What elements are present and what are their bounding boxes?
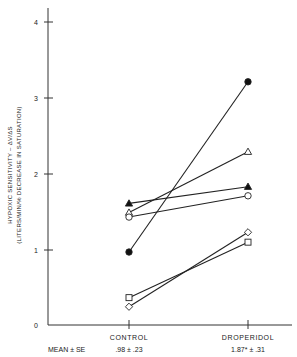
series-line	[129, 152, 248, 213]
ytick-1: 1	[34, 247, 38, 254]
open-circle-marker-icon	[245, 193, 251, 199]
series-line	[129, 82, 248, 252]
x-category-control: CONTROL	[110, 334, 148, 341]
series-1	[126, 79, 251, 256]
open-circle-marker-icon	[126, 214, 132, 220]
ytick-0: 0	[34, 322, 38, 329]
series-layer	[125, 79, 251, 311]
ytick-2: 2	[34, 171, 38, 178]
filled-triangle-marker-icon	[244, 183, 251, 189]
y-axis-title: HYPOXIC SENSITIVITY – ΔV/ΔS	[7, 126, 13, 224]
open-square-marker-icon	[126, 295, 132, 301]
series-line	[129, 196, 248, 217]
open-triangle-marker-icon	[244, 148, 251, 154]
ytick-4: 4	[34, 19, 38, 26]
filled-circle-marker-icon	[245, 79, 251, 85]
chart: 4 3 2 1 0 HYPOXIC SENSITIVITY – ΔV/ΔS (L…	[0, 0, 297, 357]
ytick-3: 3	[34, 95, 38, 102]
summary-droperidol: 1.87* ± .31	[231, 346, 265, 353]
y-axis-subtitle: (LITERS/MIN/% DECREASE IN SATURATION)	[16, 106, 22, 244]
summary-control: .98 ± .23	[115, 346, 142, 353]
series-line	[129, 187, 248, 204]
series-6	[126, 239, 251, 300]
series-4	[126, 193, 251, 221]
series-line	[129, 242, 248, 297]
open-diamond-marker-icon	[244, 229, 251, 236]
series-3	[125, 183, 251, 206]
open-square-marker-icon	[245, 239, 251, 245]
summary-label: MEAN ± SE	[48, 346, 86, 353]
chart-canvas: 4 3 2 1 0 HYPOXIC SENSITIVITY – ΔV/ΔS (L…	[0, 0, 297, 357]
open-diamond-marker-icon	[125, 303, 132, 310]
series-2	[125, 148, 251, 215]
y-tick-labels: 4 3 2 1 0	[34, 19, 38, 329]
filled-circle-marker-icon	[126, 249, 132, 255]
x-category-droperidol: DROPERIDOL	[222, 334, 274, 341]
